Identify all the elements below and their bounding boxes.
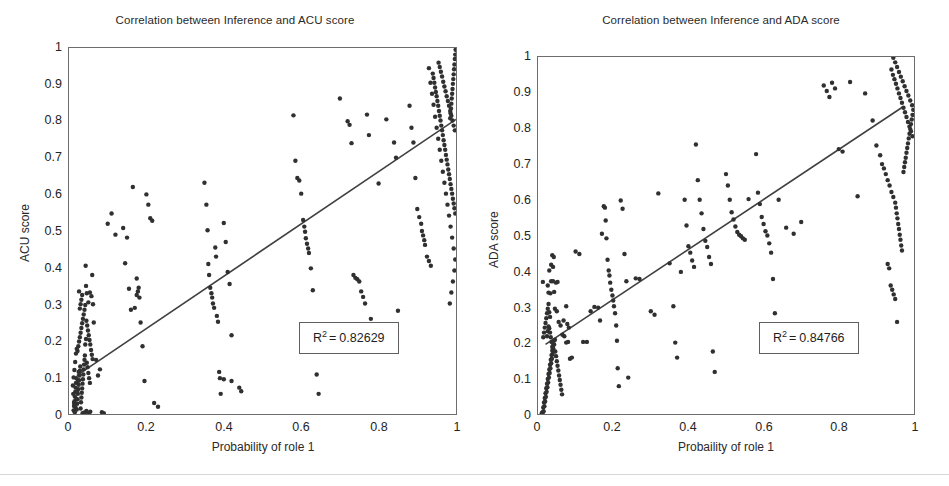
scatter-point [218,392,222,396]
ytick-label-acu-5: 0.5 [28,224,62,238]
scatter-point [555,359,559,363]
scatter-point [80,293,84,297]
scatter-point [784,225,788,229]
scatter-point [443,148,447,152]
scatter-point [443,89,447,93]
scatter-point [837,147,841,151]
scatter-point [878,153,882,157]
scatter-point [827,95,831,99]
scatter-point [415,207,419,211]
scatter-point [76,379,80,383]
scatter-point [624,279,628,283]
scatter-point [606,268,610,272]
scatter-point [902,165,906,169]
scatter-point [84,284,88,288]
scatter-point [452,206,456,210]
scatter-point [436,60,440,64]
scatter-point [765,233,769,237]
ytick-label-acu-6: 0.6 [28,187,62,201]
scatter-point [906,120,910,124]
scatter-point [450,87,454,91]
scatter-point [121,226,125,230]
scatter-point [105,221,109,225]
scatter-point [73,405,77,409]
scatter-point [637,277,641,281]
scatter-point [83,342,87,346]
scatter-point [434,90,438,94]
scatter-point [542,404,546,408]
scatter-point [413,176,417,180]
scatter-point [72,401,76,405]
scatter-point [544,316,548,320]
scatter-point [692,265,696,269]
scatter-point [88,342,92,346]
scatter-point [894,211,898,215]
scatter-point [316,392,320,396]
r-squared-symbol-ada: R [773,331,782,345]
scatter-point [451,197,455,201]
scatter-point [74,351,78,355]
scatter-point [434,94,438,98]
scatter-point [441,169,445,173]
scatter-point [218,376,222,380]
scatter-point [210,295,214,299]
scatter-point [688,250,692,254]
scatter-point [367,133,371,137]
scatter-point [567,325,571,329]
scatter-point [733,224,737,228]
scatter-point [146,202,150,206]
scatter-point [438,114,442,118]
scatter-point [885,262,889,266]
scatter-point [833,86,837,90]
scatter-point [825,89,829,93]
scatter-point [301,218,305,222]
scatter-point [556,368,560,372]
scatter-point [907,124,911,128]
scatter-point [140,344,144,348]
scatter-point [758,202,762,206]
scatter-point [431,103,435,107]
scatter-point [552,255,556,259]
plot-area-ada[interactable] [537,56,915,415]
scatter-point [81,312,85,316]
scatter-point [558,378,562,382]
scatter-point [90,273,94,277]
scatter-point [216,320,220,324]
scatter-point [436,137,440,141]
x-axis-label-ada: Probaility of role 1 [678,440,774,454]
scatter-point [205,228,209,232]
scatter-point [396,309,400,313]
scatter-point [74,396,78,400]
ytick-label-acu-4: 0.4 [28,261,62,275]
regression-line-acu [77,119,456,375]
scatter-point [446,167,450,171]
ytick-label-acu-7: 0.7 [28,150,62,164]
ytick-label-acu-8: 0.8 [28,113,62,127]
scatter-point [365,112,369,116]
scatter-point [554,354,558,358]
scatter-point [545,334,549,338]
scatter-point [553,349,557,353]
scatter-point [92,320,96,324]
xtick-label-ada-3: 0.6 [755,420,772,434]
scatter-point [212,306,216,310]
scatter-point [79,395,83,399]
scatter-point [433,115,437,119]
scatter-point [229,333,233,337]
scatter-point [897,70,901,74]
scatter-point [791,232,795,236]
scatter-point [224,240,228,244]
scatter-point [306,246,310,250]
scatter-point [671,304,675,308]
r-squared-value-acu: 0.82629 [339,331,384,345]
scatter-point [150,219,154,223]
scatter-point [440,74,444,78]
scatter-point [419,221,423,225]
scatter-point [892,77,896,81]
scatter-point [448,182,452,186]
scatter-point [229,379,233,383]
scatter-point [799,220,803,224]
plot-area-acu[interactable] [68,47,457,415]
scatter-point [78,406,82,410]
scatter-point [611,298,615,302]
